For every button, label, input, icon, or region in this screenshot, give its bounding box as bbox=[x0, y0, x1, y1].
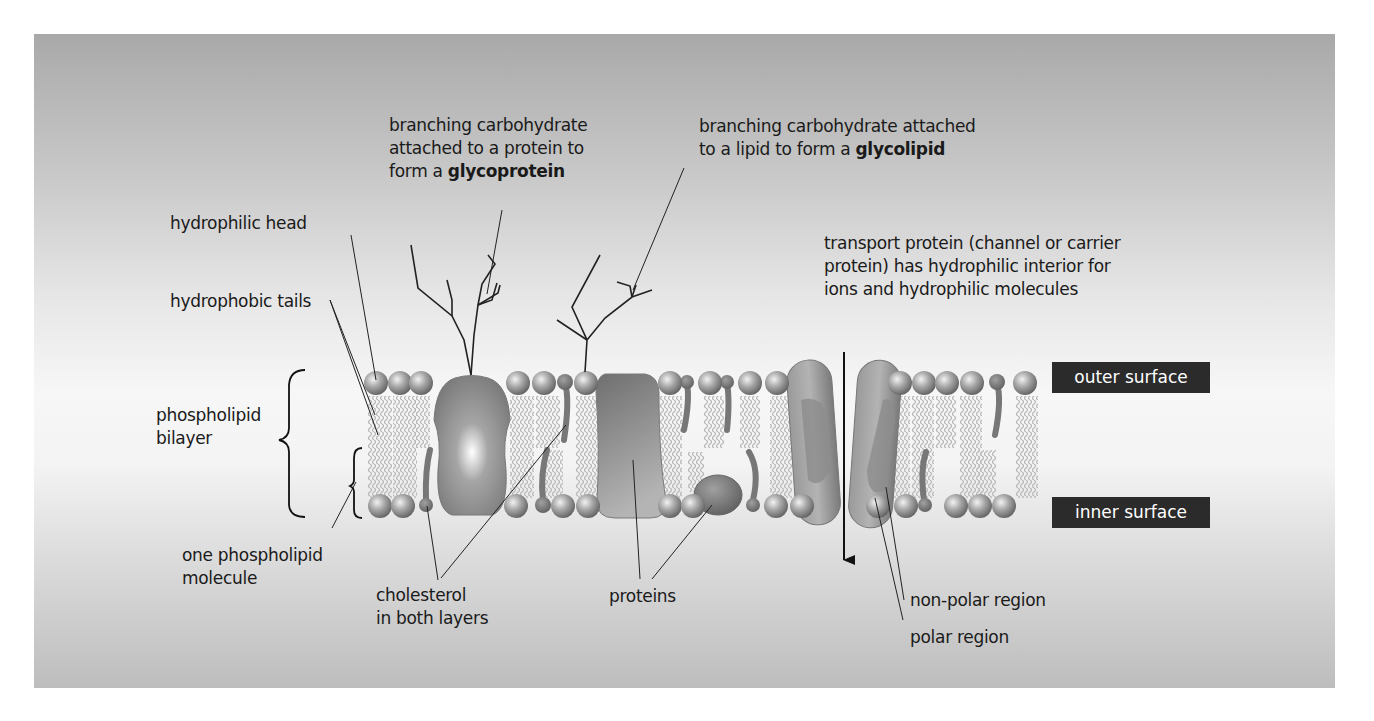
label-non-polar-region: non-polar region bbox=[910, 589, 1046, 612]
label-one-phospholipid: one phospholipid molecule bbox=[182, 544, 323, 590]
outer-surface-tag: outer surface bbox=[1052, 362, 1210, 393]
inner-surface-tag: inner surface bbox=[1052, 497, 1210, 528]
integral-protein bbox=[596, 374, 666, 518]
label-hydrophobic-tails: hydrophobic tails bbox=[170, 290, 311, 313]
label-glycolipid: branching carbohydrate attached to a lip… bbox=[699, 115, 976, 161]
glycolipid-term: glycolipid bbox=[855, 139, 945, 159]
label-phospholipid-bilayer: phospholipid bilayer bbox=[156, 404, 261, 450]
label-glycoprotein: branching carbohydrate attached to a pro… bbox=[389, 114, 587, 183]
diagram-frame: branching carbohydrate attached to a pro… bbox=[34, 34, 1335, 688]
bilayer-brace bbox=[279, 370, 305, 517]
glycoprotein-carbohydrate bbox=[411, 245, 500, 375]
label-hydrophilic-head: hydrophilic head bbox=[170, 212, 307, 235]
glycoprotein-term: glycoprotein bbox=[448, 161, 565, 181]
label-cholesterol: cholesterol in both layers bbox=[376, 584, 488, 630]
glycolipid-carbohydrate bbox=[557, 255, 652, 372]
label-polar-region: polar region bbox=[910, 626, 1009, 649]
label-proteins: proteins bbox=[609, 585, 676, 608]
label-transport-protein: transport protein (channel or carrier pr… bbox=[824, 232, 1120, 301]
glycoprotein-shape bbox=[434, 376, 510, 516]
